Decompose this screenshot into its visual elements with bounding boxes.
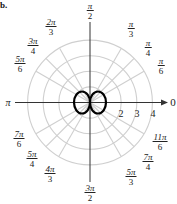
angle-label-3pi-over-4: 3π4: [27, 37, 38, 55]
angle-label-7pi-over-4: 7π4: [142, 153, 153, 171]
angle-label-pi: π: [5, 97, 10, 108]
angle-label-5pi-over-4: 5π4: [26, 150, 37, 168]
angle-label-pi-over-6: π6: [158, 57, 165, 75]
arrow-head-icon: [161, 100, 168, 106]
angle-label-5pi-over-3: 5π3: [125, 168, 136, 186]
polar-grid: [0, 0, 177, 204]
radial-label-3: 3: [135, 108, 140, 119]
angle-label-pi-over-2: π2: [87, 2, 94, 20]
angle-label-0: 0: [170, 96, 176, 108]
radial-label-4: 4: [151, 108, 156, 119]
angle-label-5pi-over-6: 5π6: [14, 55, 25, 73]
angle-label-pi-over-3: π3: [128, 20, 135, 38]
radial-label-2: 2: [119, 108, 124, 119]
angle-label-7pi-over-6: 7π6: [13, 130, 24, 148]
angle-label-3pi-over-2: 3π2: [84, 184, 95, 202]
angle-label-4pi-over-3: 4π3: [44, 165, 55, 183]
angle-label-pi-over-4: π4: [145, 39, 152, 57]
angle-label-2pi-over-3: 2π3: [45, 18, 56, 36]
angle-label-11pi-over-6: 11π6: [153, 133, 168, 151]
